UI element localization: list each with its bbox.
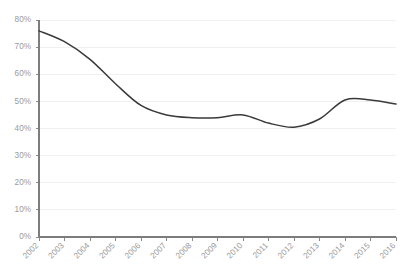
gridlines: [39, 20, 396, 210]
x-axis-tick-labels: 2002200320042005200620072008200920102011…: [21, 241, 398, 261]
x-tick-label: 2002: [21, 241, 41, 261]
y-tick-label: 20%: [15, 178, 31, 187]
line-chart: 0%10%20%30%40%50%60%70%80% 2002200320042…: [0, 0, 401, 270]
y-tick-label: 10%: [15, 205, 31, 214]
data-series-line: [39, 31, 396, 127]
x-tick-label: 2004: [72, 241, 92, 261]
x-tick-label: 2010: [225, 241, 245, 261]
x-tick-label: 2009: [200, 241, 220, 261]
x-tick-label: 2014: [327, 241, 347, 261]
y-tick-label: 80%: [15, 15, 31, 24]
y-axis-tick-labels: 0%10%20%30%40%50%60%70%80%: [15, 15, 39, 241]
y-tick-label: 0%: [19, 232, 31, 241]
x-tick-label: 2013: [302, 241, 322, 261]
x-tick-label: 2012: [276, 241, 296, 261]
y-tick-label: 40%: [15, 124, 31, 133]
x-tick-label: 2007: [149, 241, 169, 261]
x-tick-label: 2016: [378, 241, 398, 261]
x-tick-label: 2011: [251, 241, 270, 260]
y-tick-label: 30%: [15, 151, 31, 160]
y-tick-label: 60%: [15, 69, 31, 78]
x-tick-label: 2003: [47, 241, 67, 261]
y-tick-label: 70%: [15, 42, 31, 51]
x-tick-label: 2015: [353, 241, 373, 261]
x-tick-label: 2008: [174, 241, 194, 261]
x-tick-label: 2005: [98, 241, 118, 261]
x-tick-label: 2006: [123, 241, 143, 261]
y-tick-label: 50%: [15, 97, 31, 106]
chart-plot-area: 0%10%20%30%40%50%60%70%80% 2002200320042…: [0, 0, 401, 270]
